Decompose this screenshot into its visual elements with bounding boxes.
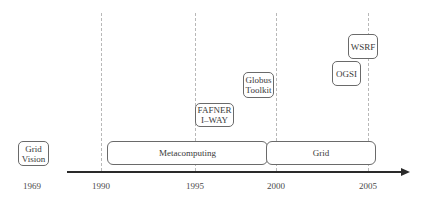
event-label-line: Grid [25,144,42,154]
gridline-1990 [101,13,102,171]
year-label: 1995 [186,181,204,191]
period-metacomputing: Metacomputing [107,141,268,165]
year-label: 1990 [92,181,110,191]
year-label: 2005 [359,181,377,191]
event-label-line: Vision [22,154,45,164]
event-label-line: WSRF [351,42,376,52]
event-label-line: Globus [245,75,271,85]
event-fafner-iway: FAFNER I–WAY [195,103,234,127]
event-label-line: Toolkit [246,85,272,95]
axis-arrowhead-icon [401,168,410,176]
period-grid: Grid [266,141,376,165]
year-label: 2000 [267,181,285,191]
event-globus-toolkit: Globus Toolkit [243,72,274,98]
event-grid-vision: Grid Vision [18,141,49,166]
period-label: Grid [313,148,330,158]
year-label: 1969 [23,181,41,191]
event-label-line: I–WAY [201,115,228,125]
event-label-line: OGSI [336,69,357,79]
period-label: Metacomputing [159,148,216,158]
event-label-line: FAFNER [198,105,232,115]
event-wsrf: WSRF [348,34,378,59]
time-axis [67,171,403,173]
timeline-diagram: Metacomputing Grid 1969 1990 1995 2000 2… [0,0,425,202]
event-ogsi: OGSI [332,61,361,86]
